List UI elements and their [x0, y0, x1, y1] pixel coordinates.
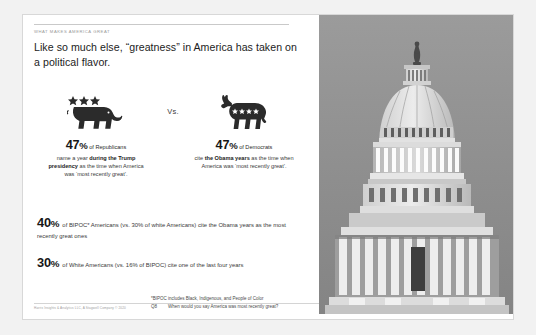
infographic-card: WHAT MAKES AMERICA GREAT Like so much el… [22, 14, 514, 320]
democrat-stat-body: cite the Obama years as the time when Am… [188, 154, 300, 171]
page-title: Like so much else, “greatness” in Americ… [34, 40, 302, 69]
white-americans-percent: 30% [37, 255, 59, 270]
party-comparison: 47% of Republicans name a year during th… [34, 91, 306, 199]
democrat-column: 47% of Democrats cite the Obama years as… [188, 91, 300, 170]
republican-stat-body: name a year during the Trump presidency … [40, 154, 152, 179]
versus-label: Vs. [158, 107, 188, 116]
kicker-divider [34, 24, 289, 25]
white-americans-stat-row: 30%of White Americans (vs. 16% of BIPOC)… [37, 258, 305, 271]
bipoc-stat-row: 40%of BIPOC* Americans (vs. 30% of white… [37, 218, 305, 241]
bipoc-definition-note: *BIPOC includes Black, Indigenous, and P… [151, 295, 278, 303]
slide-canvas: WHAT MAKES AMERICA GREAT Like so much el… [0, 0, 536, 335]
bipoc-percent: 40% [37, 215, 59, 230]
republican-column: 47% of Republicans name a year during th… [40, 91, 152, 179]
democrat-percent: 47% [216, 138, 238, 152]
kicker-label: WHAT MAKES AMERICA GREAT [34, 29, 110, 34]
content-column: WHAT MAKES AMERICA GREAT Like so much el… [23, 15, 320, 319]
democrat-subject: of Democrats [239, 144, 272, 150]
republican-elephant-icon [40, 91, 152, 133]
bipoc-stat-text: of BIPOC* Americans (vs. 30% of white Am… [37, 222, 286, 239]
white-americans-stat-text: of White Americans (vs. 16% of BIPOC) ci… [62, 262, 243, 268]
source-credit: Harris Insights & Analytics LLC, A Stagw… [34, 306, 126, 310]
republican-stat-heading: 47% of Republicans [40, 141, 152, 152]
us-capitol-dome-photo [319, 15, 514, 314]
republican-percent: 47% [66, 138, 88, 152]
democrat-donkey-icon [188, 91, 300, 133]
democrat-stat-heading: 47% of Democrats [188, 141, 300, 152]
republican-subject: of Republicans [89, 144, 126, 150]
